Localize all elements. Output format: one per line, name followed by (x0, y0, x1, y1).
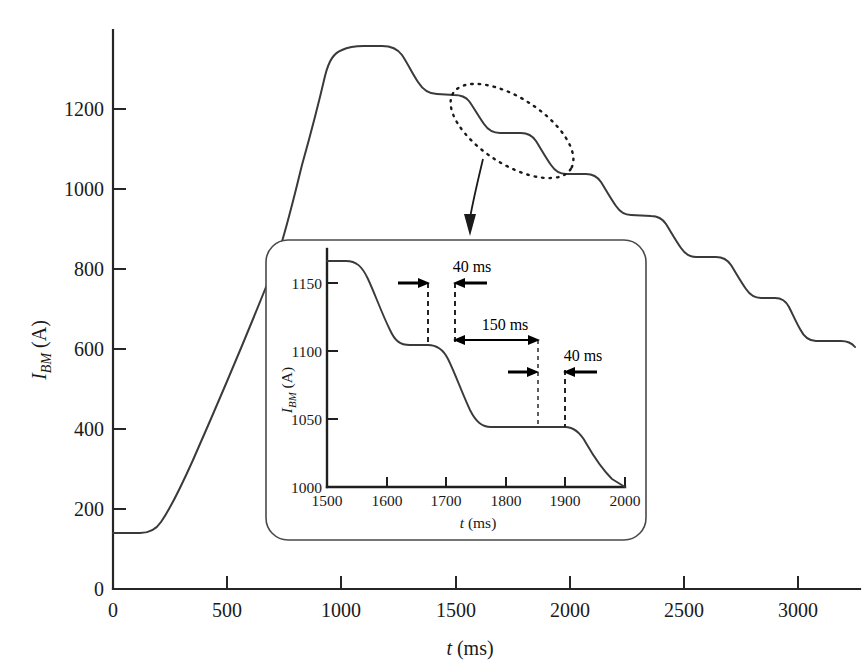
y-tick-label: 400 (74, 418, 104, 440)
y-axis-sub: BM (39, 352, 54, 374)
inset-y-tick-label: 1150 (292, 275, 323, 292)
y-tick-label: 0 (94, 578, 104, 600)
inset-y-axis-unit: (A) (278, 367, 296, 389)
inset-x-tick-label: 1600 (372, 492, 403, 509)
main-y-tick-labels: 0 200 400 600 800 1000 1200 (64, 98, 104, 600)
y-tick-label: 600 (74, 338, 104, 360)
y-tick-label: 1200 (64, 98, 104, 120)
y-tick-label: 1000 (64, 178, 104, 200)
main-x-axis (113, 576, 860, 589)
annotation-label-40ms-second: 40 ms (564, 347, 603, 364)
inset-x-tick-label: 2000 (610, 492, 641, 509)
inset-panel: 1000 1050 1100 1150 1500 1600 1700 1800 … (266, 240, 646, 540)
chart-canvas: 0 200 400 600 800 1000 1200 0 500 1000 1… (0, 0, 867, 668)
x-tick-label: 1500 (436, 599, 476, 621)
inset-y-tick-label: 1050 (291, 411, 322, 428)
inset-y-tick-label: 1100 (292, 343, 323, 360)
main-x-axis-title: t (ms) (446, 637, 493, 660)
main-y-axis (113, 30, 126, 589)
callout-ellipse (435, 65, 588, 197)
x-tick-label: 500 (212, 599, 242, 621)
inset-x-tick-label: 1700 (431, 492, 462, 509)
main-y-axis-title: IBM (A) (28, 320, 54, 381)
annotation-label-150ms: 150 ms (482, 316, 529, 333)
svg-text:t (ms): t (ms) (460, 514, 497, 532)
inset-x-tick-label: 1800 (491, 492, 522, 509)
y-tick-label: 200 (74, 498, 104, 520)
x-tick-label: 1000 (321, 599, 361, 621)
x-tick-label: 3000 (778, 599, 818, 621)
y-tick-label: 800 (74, 258, 104, 280)
annotation-label-40ms-first: 40 ms (453, 258, 492, 275)
callout-leader-arrow (464, 159, 483, 236)
inset-x-tick-label: 1900 (550, 492, 581, 509)
main-x-tick-labels: 0 500 1000 1500 2000 2500 3000 (108, 599, 818, 621)
svg-text:IBM (A): IBM (A) (28, 320, 54, 381)
svg-text:t (ms): t (ms) (446, 637, 493, 660)
inset-y-axis-sub: BM (286, 391, 298, 408)
inset-x-axis-title: t (ms) (460, 514, 497, 532)
inset-x-tick-label: 1500 (312, 492, 343, 509)
x-axis-unit: (ms) (457, 637, 494, 660)
figure-root: 0 200 400 600 800 1000 1200 0 500 1000 1… (0, 0, 867, 668)
x-tick-label: 2000 (550, 599, 590, 621)
y-axis-unit: (A) (28, 320, 51, 348)
x-tick-label: 0 (108, 599, 118, 621)
inset-x-axis-unit: (ms) (468, 514, 496, 532)
x-tick-label: 2500 (664, 599, 704, 621)
